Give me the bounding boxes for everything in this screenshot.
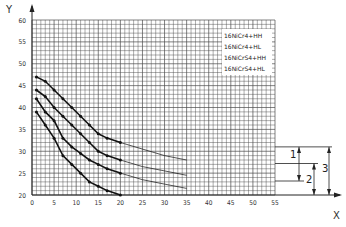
data-point-marker xyxy=(106,167,109,170)
data-curves xyxy=(35,75,187,196)
data-point-marker xyxy=(53,137,56,140)
data-point-marker xyxy=(53,89,56,92)
data-point-marker xyxy=(79,152,82,155)
dimension-label-1: 1 xyxy=(290,149,296,160)
data-point-marker xyxy=(70,106,73,109)
data-point-marker xyxy=(119,159,122,162)
x-tick-label: 50 xyxy=(249,199,257,207)
y-axis-label: Y xyxy=(5,4,13,15)
legend: 16NiCr4+HH 16NiCr4+HL 16NiCrS4+HH 16NiCr… xyxy=(222,29,272,75)
data-point-marker xyxy=(61,97,64,100)
data-point-marker xyxy=(106,154,109,157)
arrowhead-up-icon xyxy=(327,147,331,153)
legend-item-16nicrs4-hl: 16NiCrS4+HL xyxy=(224,65,266,72)
arrowhead-down-icon xyxy=(327,189,331,195)
data-point-marker xyxy=(61,154,64,157)
x-tick-labels: 0510152025303540455055 xyxy=(30,199,279,207)
data-point-marker xyxy=(119,194,122,197)
y-tick-label: 50 xyxy=(19,60,27,68)
y-tick-label: 25 xyxy=(19,170,27,178)
y-tick-label: 30 xyxy=(19,148,27,156)
y-axis-arrow-icon xyxy=(30,4,35,12)
x-tick-label: 25 xyxy=(139,199,147,207)
x-tick-label: 20 xyxy=(117,199,125,207)
y-tick-labels: 202530354045505560 xyxy=(19,17,27,200)
legend-item-16nicr4-hh: 16NiCr4+HH xyxy=(224,32,262,39)
data-point-marker xyxy=(70,124,73,127)
data-point-marker xyxy=(79,172,82,175)
data-point-marker xyxy=(44,95,47,98)
y-tick-label: 60 xyxy=(19,17,27,25)
hardenability-chart: 202530354045505560 051015202530354045505… xyxy=(0,0,346,227)
data-point-marker xyxy=(44,124,47,127)
data-point-marker xyxy=(70,145,73,148)
arrowhead-up-icon xyxy=(312,164,316,170)
data-point-marker xyxy=(88,141,91,144)
x-tick-label: 0 xyxy=(30,199,34,207)
data-point-marker xyxy=(106,137,109,140)
data-point-marker xyxy=(61,137,64,140)
data-point-marker xyxy=(88,124,91,127)
data-point-marker xyxy=(44,110,47,113)
x-tick-label: 5 xyxy=(52,199,56,207)
data-point-marker xyxy=(70,163,73,166)
x-axis xyxy=(32,193,342,198)
x-tick-label: 45 xyxy=(227,199,235,207)
x-axis-label: X xyxy=(333,210,340,221)
data-point-marker xyxy=(61,115,64,118)
x-tick-label: 30 xyxy=(161,199,169,207)
data-point-marker xyxy=(119,141,122,144)
data-point-marker xyxy=(97,150,100,153)
data-point-marker xyxy=(35,89,38,92)
arrowhead-up-icon xyxy=(297,147,301,153)
x-tick-label: 40 xyxy=(205,199,213,207)
data-point-marker xyxy=(79,115,82,118)
legend-item-16nicr4-hl: 16NiCr4+HL xyxy=(224,43,262,50)
data-point-marker xyxy=(79,132,82,135)
data-point-marker xyxy=(44,80,47,83)
y-tick-label: 40 xyxy=(19,104,27,112)
dimension-label-2: 2 xyxy=(306,174,312,185)
y-tick-label: 20 xyxy=(19,192,27,200)
y-tick-label: 35 xyxy=(19,126,27,134)
data-point-marker xyxy=(97,163,100,166)
legend-item-16nicrs4-hh: 16NiCrS4+HH xyxy=(224,54,266,61)
dimension-label-3: 3 xyxy=(322,163,328,174)
data-point-marker xyxy=(53,119,56,122)
data-point-marker xyxy=(97,132,100,135)
data-point-marker xyxy=(106,189,109,192)
data-point-marker xyxy=(35,75,38,78)
data-point-marker xyxy=(97,185,100,188)
curve-16nicrs4-hh xyxy=(36,99,120,173)
data-point-marker xyxy=(35,110,38,113)
y-axis xyxy=(30,4,35,195)
data-point-marker xyxy=(35,97,38,100)
data-point-marker xyxy=(88,159,91,162)
data-point-marker xyxy=(119,172,122,175)
y-tick-label: 45 xyxy=(19,82,27,90)
x-tick-label: 55 xyxy=(271,199,279,207)
y-tick-label: 55 xyxy=(19,38,27,46)
x-tick-label: 35 xyxy=(183,199,191,207)
x-tick-label: 10 xyxy=(72,199,80,207)
arrowhead-down-icon xyxy=(297,175,301,181)
data-point-marker xyxy=(88,180,91,183)
data-point-marker xyxy=(53,106,56,109)
x-axis-arrow-icon xyxy=(334,193,342,198)
x-tick-label: 15 xyxy=(95,199,103,207)
curve-16nicrs4-hl xyxy=(36,112,120,195)
arrowhead-down-icon xyxy=(312,189,316,195)
